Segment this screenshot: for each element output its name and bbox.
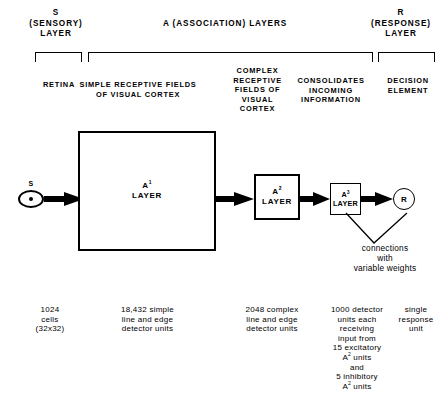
column-header-decision-element: DECISION ELEMENT [376, 76, 440, 95]
arrow-a3-to-r [361, 192, 393, 206]
column-header-complex-receptive: COMPLEX RECEPTIVE FIELDS OF VISUAL CORTE… [225, 66, 290, 114]
caption-retina: 1024 cells (32x32) [14, 305, 86, 334]
diagram-canvas: S (SENSORY) LAYER A (ASSOCIATION) LAYERS… [0, 0, 447, 397]
a1-layer-label: A1LAYER [132, 181, 162, 201]
a1-label-superscript: 1 [149, 179, 152, 185]
a2-label-tail: LAYER [262, 197, 292, 206]
annotation-leader-lines [345, 212, 415, 244]
bracket-association [88, 52, 373, 62]
bracket-sensory [35, 52, 82, 62]
response-node: R [393, 188, 415, 210]
column-header-consolidates: CONSOLIDATES INCOMING INFORMATION [291, 76, 371, 105]
caption-response: single response unit [386, 305, 446, 334]
caption-a3-sup1-tail: units [351, 353, 372, 362]
caption-a3-part1: 1000 detector units each receiving input… [331, 305, 383, 352]
caption-a2: 2048 complex line and edge detector unit… [222, 305, 322, 334]
header-response-layer: R (RESPONSE) LAYER [355, 8, 447, 40]
eye-icon [18, 190, 44, 208]
a3-layer-label: A3LAYER [333, 190, 358, 208]
a1-layer-box: A1LAYER [78, 131, 216, 251]
a2-layer-label: A2LAYER [262, 187, 292, 207]
header-sensory-layer: S (SENSORY) LAYER [6, 8, 106, 40]
eye-pupil [29, 197, 33, 201]
header-association-layers: A (ASSOCIATION) LAYERS [112, 19, 338, 30]
bracket-response [378, 52, 435, 62]
caption-a1: 18,432 simple line and edge detector uni… [90, 305, 205, 334]
a3-label-tail: LAYER [333, 199, 358, 208]
caption-a3-part2: and 5 inhibitory [336, 363, 378, 382]
a3-layer-box: A3LAYER [330, 183, 361, 215]
a3-label-superscript: 3 [347, 190, 350, 195]
a2-layer-box: A2LAYER [254, 174, 300, 220]
a2-label-superscript: 2 [279, 185, 282, 191]
response-node-label: R [401, 195, 407, 204]
connections-annotation: connections with variable weights [330, 244, 440, 273]
caption-a3-sup2-tail: units [351, 382, 372, 391]
column-header-simple-receptive: SIMPLE RECEPTIVE FIELDS OF VISUAL CORTEX [68, 80, 208, 99]
arrow-a2-to-a3 [300, 192, 330, 206]
arrow-a1-to-a2 [216, 192, 254, 206]
stimulus-label: S [20, 180, 42, 187]
a1-label-tail: LAYER [132, 191, 162, 200]
